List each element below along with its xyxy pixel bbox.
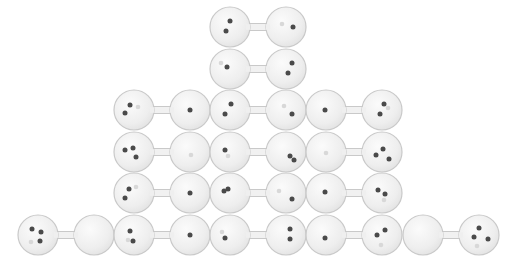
ball [223, 236, 228, 241]
connector-joint [266, 107, 270, 113]
ball [286, 71, 291, 76]
ghost-ball [126, 238, 131, 243]
dumbbell [114, 132, 210, 172]
ball [131, 146, 136, 151]
right-chamber [266, 7, 306, 47]
ball [123, 148, 128, 153]
connector-joint [170, 107, 174, 113]
ball [472, 235, 477, 240]
ghost-ball [226, 154, 231, 159]
ball [228, 19, 233, 24]
ball-distribution-diagram [0, 0, 519, 268]
ball [290, 112, 295, 117]
ball [225, 65, 230, 70]
connector-joint [342, 232, 346, 238]
ghost-ball [382, 198, 387, 203]
ball [188, 233, 193, 238]
connector-joint [342, 190, 346, 196]
ball [375, 233, 380, 238]
connector-joint [362, 232, 366, 238]
connector-joint [170, 149, 174, 155]
dumbbell [403, 215, 499, 255]
ball [131, 239, 136, 244]
ball [226, 187, 231, 192]
ball [223, 112, 228, 117]
right-chamber [459, 215, 499, 255]
ball [188, 191, 193, 196]
dumbbell [306, 90, 402, 130]
ghost-ball [220, 230, 225, 235]
connector-joint [266, 149, 270, 155]
dumbbell [210, 49, 306, 89]
left-chamber [210, 173, 250, 213]
left-chamber [210, 49, 250, 89]
ball [323, 190, 328, 195]
ball [387, 157, 392, 162]
left-chamber [210, 7, 250, 47]
connector-joint [439, 232, 443, 238]
ball [477, 226, 482, 231]
dumbbell [306, 173, 402, 213]
dumbbell-group [18, 7, 499, 255]
dumbbell [210, 90, 306, 130]
connector-joint [266, 190, 270, 196]
ball [290, 61, 295, 66]
connector-joint [246, 190, 250, 196]
connector-joint [266, 24, 270, 30]
ghost-ball [475, 244, 480, 249]
dumbbell [210, 215, 306, 255]
connector-joint [362, 107, 366, 113]
ball [188, 108, 193, 113]
ball [127, 187, 132, 192]
right-chamber [266, 49, 306, 89]
connector-joint [246, 149, 250, 155]
dumbbell [210, 7, 306, 47]
connector-joint [170, 232, 174, 238]
connector-joint [342, 149, 346, 155]
ball [323, 108, 328, 113]
ball [288, 154, 293, 159]
ghost-ball [277, 189, 282, 194]
left-chamber [210, 132, 250, 172]
ball [229, 102, 234, 107]
connector-joint [246, 232, 250, 238]
right-chamber [266, 173, 306, 213]
dumbbell [114, 215, 210, 255]
ghost-ball [386, 106, 391, 111]
ghost-ball [189, 153, 194, 158]
left-chamber [114, 132, 154, 172]
dumbbell [114, 173, 210, 213]
dumbbell [18, 215, 114, 255]
ball [128, 229, 133, 234]
ball [224, 29, 229, 34]
connector-joint [459, 232, 463, 238]
connector-joint [170, 190, 174, 196]
ball [381, 147, 386, 152]
connector-joint [150, 232, 154, 238]
right-chamber [266, 215, 306, 255]
right-chamber [170, 132, 210, 172]
right-chamber [362, 173, 402, 213]
dumbbell [306, 215, 402, 255]
ball [128, 103, 133, 108]
ball [378, 112, 383, 117]
connector-joint [246, 66, 250, 72]
left-chamber [403, 215, 443, 255]
dumbbell [210, 132, 306, 172]
ball [30, 227, 35, 232]
connector-joint [266, 66, 270, 72]
ball [374, 153, 379, 158]
left-chamber [210, 215, 250, 255]
dumbbell [306, 132, 402, 172]
right-chamber [266, 132, 306, 172]
ball [288, 227, 293, 232]
connector-joint [150, 190, 154, 196]
left-chamber [18, 215, 58, 255]
connector-joint [54, 232, 58, 238]
ghost-ball [379, 243, 384, 248]
left-chamber [114, 215, 154, 255]
ball [134, 155, 139, 160]
ball [376, 188, 381, 193]
connector-joint [150, 107, 154, 113]
ghost-ball [134, 185, 139, 190]
